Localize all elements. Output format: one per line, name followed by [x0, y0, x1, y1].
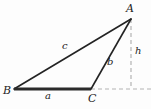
side-c-line — [14, 19, 131, 89]
triangle-diagram-canvas — [0, 0, 151, 109]
side-label-a: a — [45, 91, 51, 101]
side-b-line — [91, 19, 131, 89]
side-label-c: c — [62, 41, 68, 51]
vertex-label-a: A — [126, 3, 134, 14]
altitude-label-h: h — [135, 46, 141, 56]
vertex-label-b: B — [3, 85, 11, 96]
geometry-figure: A B C a b c h — [0, 0, 151, 109]
vertex-label-c: C — [88, 93, 96, 104]
side-label-b: b — [107, 57, 113, 67]
